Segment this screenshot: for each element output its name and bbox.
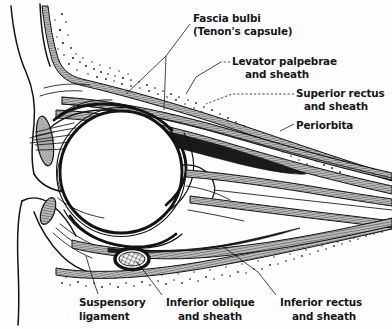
levator-palpebrae-label-line1: Levator palpebrae	[232, 55, 337, 67]
orbit-sagittal-diagram: Fascia bulbi (Tenon's capsule) Levator p…	[0, 0, 392, 329]
inferior-oblique-label-line2: and sheath	[178, 310, 242, 322]
inferior-oblique-muscle	[115, 249, 149, 270]
inferior-rectus-label-line1: Inferior rectus	[280, 296, 362, 308]
superior-rectus-label-line1: Superior rectus	[296, 87, 385, 99]
anatomical-figure: Fascia bulbi (Tenon's capsule) Levator p…	[0, 0, 392, 329]
fascia-bulbi-label-line2: (Tenon's capsule)	[193, 25, 292, 37]
superior-rectus-label-line2: and sheath	[304, 100, 368, 112]
inferior-rectus-label-line2: and sheath	[292, 310, 356, 322]
inferior-oblique-label-line1: Inferior oblique	[166, 296, 255, 308]
suspensory-ligament-label-line2: ligament	[79, 310, 130, 322]
periorbita-label: Periorbita	[296, 119, 353, 131]
levator-palpebrae-label-line2: and sheath	[245, 68, 309, 80]
suspensory-ligament-label-line1: Suspensory	[79, 296, 146, 308]
fascia-bulbi-label-line1: Fascia bulbi	[193, 12, 261, 24]
